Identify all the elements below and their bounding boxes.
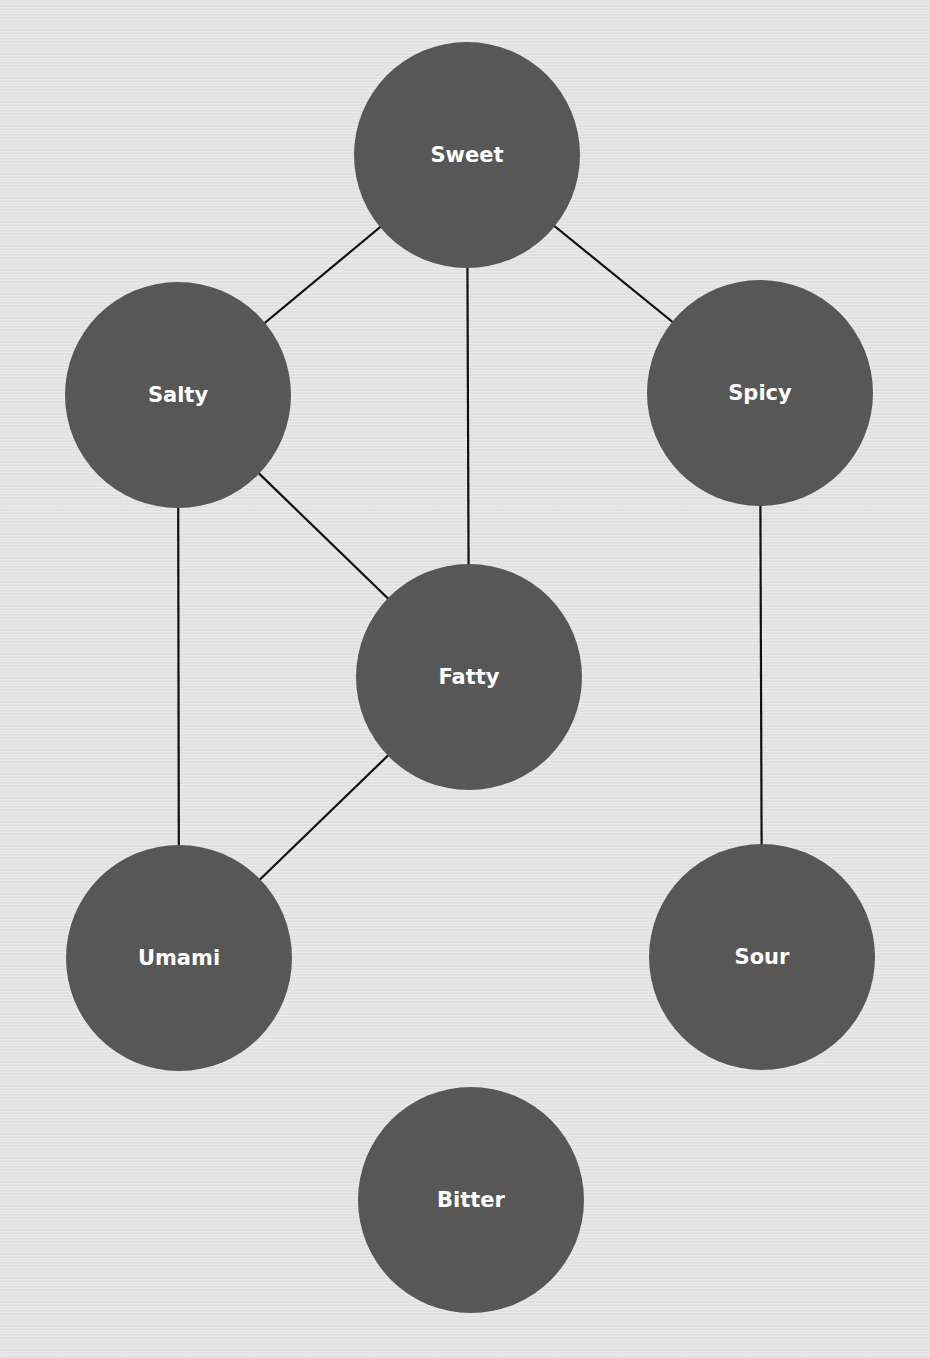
node-spicy[interactable]: Spicy xyxy=(647,280,873,506)
edges-layer xyxy=(178,155,762,958)
node-label: Sweet xyxy=(430,143,503,167)
node-sour[interactable]: Sour xyxy=(649,844,875,1070)
node-label: Spicy xyxy=(728,381,792,405)
node-salty[interactable]: Salty xyxy=(65,282,291,508)
node-label: Salty xyxy=(148,383,209,407)
node-label: Umami xyxy=(138,946,220,970)
taste-graph: Sweet Salty Spicy Fatty Umami Sour xyxy=(0,0,930,1358)
nodes-layer: Sweet Salty Spicy Fatty Umami Sour xyxy=(65,42,875,1313)
node-sweet[interactable]: Sweet xyxy=(354,42,580,268)
node-umami[interactable]: Umami xyxy=(66,845,292,1071)
node-fatty[interactable]: Fatty xyxy=(356,564,582,790)
node-bitter[interactable]: Bitter xyxy=(358,1087,584,1313)
node-label: Bitter xyxy=(437,1188,506,1212)
node-label: Sour xyxy=(735,945,791,969)
node-label: Fatty xyxy=(438,665,499,689)
diagram-canvas: Sweet Salty Spicy Fatty Umami Sour xyxy=(0,0,930,1358)
